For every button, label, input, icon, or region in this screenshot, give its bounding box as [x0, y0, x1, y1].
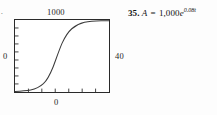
graphing-calculator-figure: . 1000 0 40 0 [0, 0, 125, 115]
window-label-xmin: 0 [3, 51, 7, 61]
figure-page: . 1000 0 40 0 [0, 0, 217, 115]
y-axis-tick-marks [15, 28, 19, 84]
answer-expression: 35. A = 1,000e0.08t [128, 7, 196, 19]
window-label-ymax: 1000 [47, 7, 65, 17]
plot-canvas [15, 20, 109, 92]
answer-variable: A [142, 8, 148, 18]
window-label-xmax: 40 [115, 51, 124, 61]
answer-equals-sign: = [150, 8, 157, 18]
plot-viewing-window [14, 19, 110, 93]
figure-bullet-marker: . [1, 10, 5, 15]
x-axis-tick-marks [28, 89, 95, 92]
answer-coefficient: 1,000 [159, 8, 180, 18]
window-label-ymin: 0 [54, 97, 58, 107]
answer-number: 35. [128, 8, 140, 18]
growth-curve [15, 21, 109, 92]
answer-exponent: 0.08t [184, 7, 196, 13]
